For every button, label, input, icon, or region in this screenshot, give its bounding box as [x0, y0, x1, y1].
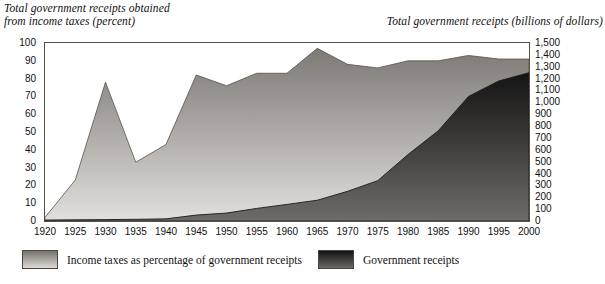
y-axis-left-tick-label: 90: [6, 56, 36, 66]
x-axis-tick-label: 2000: [509, 227, 549, 237]
y-axis-left-tick-label: 100: [6, 38, 36, 48]
y-axis-right-tick-label: 500: [535, 157, 575, 167]
y-axis-right-tick-label: 300: [535, 180, 575, 190]
left-axis-title: Total government receipts obtained from …: [4, 2, 170, 28]
y-axis-right-tick-label: 1,500: [535, 38, 575, 48]
y-axis-right-tick-label: 800: [535, 121, 575, 131]
legend-swatch-dark: [318, 250, 354, 269]
chart-legend: Income taxes as percentage of government…: [0, 248, 605, 278]
y-axis-right-tick-label: 1,100: [535, 85, 575, 95]
y-axis-left-tick-label: 40: [6, 145, 36, 155]
legend-swatch-light: [22, 250, 58, 269]
y-axis-right-tick-label: 1,300: [535, 62, 575, 72]
plot-area: [44, 42, 530, 222]
legend-label-income-tax-percentage: Income taxes as percentage of government…: [67, 254, 302, 266]
y-axis-right-tick-label: 0: [535, 216, 575, 226]
chart-figure: Total government receipts obtained from …: [0, 0, 605, 284]
legend-item-income-tax-percentage: Income taxes as percentage of government…: [22, 250, 302, 269]
y-axis-right-tick-label: 1,400: [535, 50, 575, 60]
right-axis-title: Total government receipts (billions of d…: [387, 15, 603, 28]
legend-item-government-receipts: Government receipts: [318, 250, 459, 269]
y-axis-right-tick-label: 700: [535, 133, 575, 143]
y-axis-left-tick-label: 50: [6, 127, 36, 137]
y-axis-right-tick-label: 1,000: [535, 97, 575, 107]
y-axis-right-tick-label: 400: [535, 169, 575, 179]
plot-svg: [45, 43, 529, 221]
y-axis-left-tick-label: 0: [6, 216, 36, 226]
y-axis-right-tick-label: 100: [535, 204, 575, 214]
y-axis-right-tick-label: 900: [535, 109, 575, 119]
y-axis-left-tick-label: 60: [6, 109, 36, 119]
y-axis-right-tick-label: 200: [535, 192, 575, 202]
y-axis-left-tick-label: 20: [6, 180, 36, 190]
legend-label-government-receipts: Government receipts: [363, 254, 459, 266]
y-axis-left-tick-label: 30: [6, 163, 36, 173]
y-axis-left-tick-label: 80: [6, 74, 36, 84]
y-axis-right-tick-label: 1,200: [535, 74, 575, 84]
y-axis-right-tick-label: 600: [535, 145, 575, 155]
y-axis-left-tick-label: 10: [6, 198, 36, 208]
y-axis-left-tick-label: 70: [6, 91, 36, 101]
